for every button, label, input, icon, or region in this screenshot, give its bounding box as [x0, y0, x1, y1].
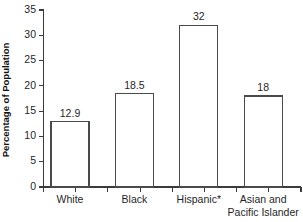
- y-axis-tick-label: 0: [30, 180, 36, 192]
- y-axis-tick-label: 35: [24, 3, 36, 15]
- bar-value-label: 12.9: [60, 107, 81, 119]
- bar-black[interactable]: [115, 93, 153, 187]
- bar-series: [51, 25, 282, 187]
- bar-value-label: 18.5: [124, 79, 145, 91]
- bar-hispanic[interactable]: [180, 25, 218, 187]
- y-axis-ticks: [39, 10, 44, 187]
- category-label-asian-pacific-line2: Pacific Islander: [228, 206, 300, 218]
- y-axis-tick-labels: 0 5 10 15 20 25 30 35: [24, 3, 36, 192]
- bar-white[interactable]: [51, 122, 89, 187]
- bar-chart-figure: Percentage of Population 0 5 10 15 20 25…: [0, 0, 303, 222]
- category-label-hispanic: Hispanic*: [177, 193, 221, 205]
- chart-canvas: Percentage of Population 0 5 10 15 20 25…: [0, 0, 303, 222]
- x-axis-category-labels: White Black Hispanic* Asian and Pacific …: [57, 193, 300, 218]
- category-label-white: White: [57, 193, 84, 205]
- y-axis-tick-label: 25: [24, 53, 36, 65]
- y-axis-title: Percentage of Population: [0, 43, 11, 158]
- category-label-black: Black: [122, 193, 148, 205]
- bar-value-label: 32: [193, 10, 205, 22]
- y-axis-tick-label: 15: [24, 104, 36, 116]
- y-axis-tick-label: 30: [24, 28, 36, 40]
- bar-value-labels: 12.9 18.5 32 18: [60, 10, 269, 119]
- bar-asian-pacific-islander[interactable]: [244, 96, 282, 187]
- bar-value-label: 18: [257, 81, 269, 93]
- x-axis-ticks: [44, 187, 302, 192]
- y-axis-tick-label: 5: [30, 154, 36, 166]
- y-axis-tick-label: 10: [24, 129, 36, 141]
- category-label-asian-pacific-line1: Asian and: [240, 193, 287, 205]
- y-axis-tick-label: 20: [24, 79, 36, 91]
